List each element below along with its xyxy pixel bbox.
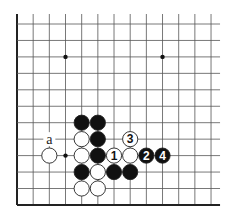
move-number: 3	[127, 132, 134, 146]
stone-body	[90, 164, 105, 179]
go-board: a 3124	[0, 0, 237, 217]
white-stone-1: 1	[106, 148, 121, 163]
black-stone	[74, 115, 89, 130]
white-stone-3: 3	[123, 132, 138, 147]
stone-body	[123, 164, 138, 179]
black-stone-4: 4	[155, 148, 170, 163]
stone-body	[123, 148, 138, 163]
black-stone	[74, 164, 89, 179]
stone-body	[90, 115, 105, 130]
white-stone	[90, 181, 105, 196]
stone-body	[90, 181, 105, 196]
point-label-a: a	[46, 132, 53, 147]
point-labels: a	[43, 132, 55, 147]
move-number: 4	[159, 149, 166, 163]
white-stone	[123, 148, 138, 163]
stone-body	[74, 164, 89, 179]
stone-body	[42, 148, 57, 163]
black-stone	[90, 132, 105, 147]
move-number: 2	[143, 149, 150, 163]
black-stone	[106, 164, 121, 179]
stone-body	[74, 132, 89, 147]
move-number: 1	[111, 149, 118, 163]
white-stone	[90, 164, 105, 179]
black-stone	[90, 115, 105, 130]
stone-body	[74, 181, 89, 196]
black-stone	[123, 164, 138, 179]
stone-body	[74, 115, 89, 130]
white-stone	[42, 148, 57, 163]
black-stone-2: 2	[139, 148, 154, 163]
white-stone	[74, 132, 89, 147]
stone-body	[106, 164, 121, 179]
star-point	[63, 55, 67, 59]
stone-body	[74, 148, 89, 163]
black-stone	[90, 148, 105, 163]
white-stone	[74, 181, 89, 196]
stone-body	[90, 132, 105, 147]
star-point	[63, 153, 67, 157]
stone-body	[90, 148, 105, 163]
star-point	[160, 55, 164, 59]
white-stone	[74, 148, 89, 163]
